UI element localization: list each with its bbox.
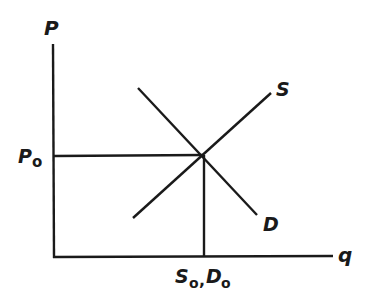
equilibrium-quantity-separator: , xyxy=(199,271,205,290)
price-axis xyxy=(53,44,54,258)
quantity-axis-label: q xyxy=(338,243,352,267)
equilibrium-quantity-label-d: D xyxy=(206,265,222,287)
price-axis-label: P xyxy=(44,16,59,40)
equilibrium-price-line xyxy=(54,155,203,156)
demand-curve-label: D xyxy=(263,213,279,235)
supply-demand-diagram: P q D S P o S o , D o xyxy=(0,0,372,306)
equilibrium-quantity-label: S o , D o xyxy=(175,265,231,291)
quantity-axis xyxy=(53,256,333,257)
supply-curve-label: S xyxy=(276,78,290,100)
equilibrium-quantity-label-s-sub: o xyxy=(189,275,199,291)
equilibrium-price-label-main: P xyxy=(18,145,32,167)
equilibrium-price-label-sub: o xyxy=(32,153,42,171)
equilibrium-quantity-label-d-sub: o xyxy=(221,275,231,291)
equilibrium-price-label: P o xyxy=(18,145,42,171)
equilibrium-quantity-label-s: S xyxy=(175,265,189,287)
